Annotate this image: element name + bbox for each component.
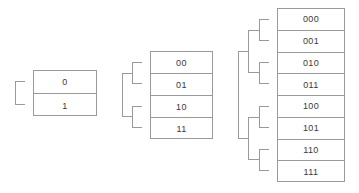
table-row[interactable]: 010 <box>278 53 344 75</box>
diagram-canvas: 0 1 00 01 10 11 <box>0 0 359 193</box>
table-row[interactable]: 110 <box>278 140 344 162</box>
table-row[interactable]: 100 <box>278 96 344 118</box>
table-row[interactable]: 111 <box>278 161 344 183</box>
address-table-three-bit: 000 001 010 011 100 101 110 111 <box>277 8 345 182</box>
table-row[interactable]: 001 <box>278 31 344 53</box>
table-row[interactable]: 000 <box>278 9 344 31</box>
table-row[interactable]: 101 <box>278 118 344 140</box>
table-row[interactable]: 011 <box>278 74 344 96</box>
